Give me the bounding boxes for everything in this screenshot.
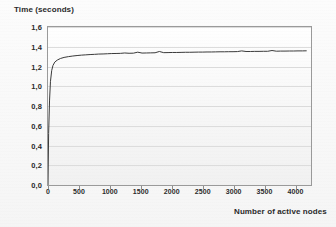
- x-tick-mark: [141, 186, 142, 189]
- y-tick-label: 1,6: [0, 23, 42, 32]
- x-tick-mark: [79, 186, 80, 189]
- series-line-response-time: [48, 27, 311, 185]
- y-axis-title: Time (seconds): [14, 5, 74, 14]
- x-tick-mark: [48, 186, 49, 189]
- x-tick-mark: [265, 186, 266, 189]
- y-tick-label: 1,2: [0, 63, 42, 72]
- y-tick-label: 0,6: [0, 122, 42, 131]
- x-tick-mark: [203, 186, 204, 189]
- x-tick-mark: [234, 186, 235, 189]
- chart-figure: Time (seconds) 0,00,20,40,60,81,01,21,41…: [0, 0, 336, 227]
- plot-area: [47, 26, 312, 186]
- y-tick-label: 0,8: [0, 102, 42, 111]
- x-tick-label: 4000: [276, 188, 316, 195]
- x-tick-mark: [110, 186, 111, 189]
- x-tick-mark: [296, 186, 297, 189]
- y-tick-label: 0,2: [0, 161, 42, 170]
- y-tick-label: 0,4: [0, 142, 42, 151]
- x-axis-title: Number of active nodes: [234, 207, 327, 216]
- y-tick-label: 1,0: [0, 82, 42, 91]
- y-tick-label: 1,4: [0, 43, 42, 52]
- x-tick-mark: [172, 186, 173, 189]
